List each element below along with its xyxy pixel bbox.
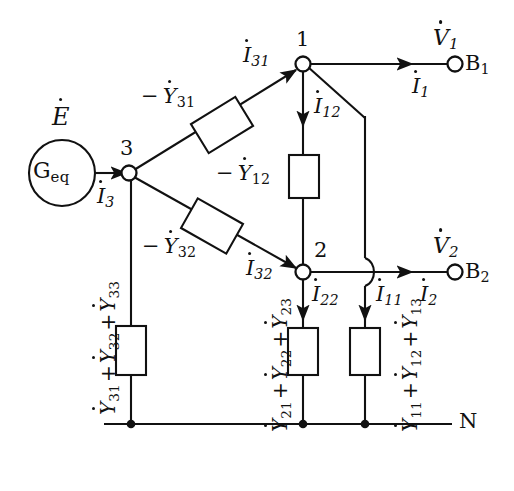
admittance-label-y32: − Y32 — [142, 236, 196, 259]
junction-dot-right — [361, 420, 370, 429]
node-2 — [296, 265, 311, 280]
voltage-label-v1: V1 — [433, 27, 459, 52]
shunt-label-node2: Y21 + Y22 + Y23 — [270, 298, 293, 432]
current-label-i31: I31 — [243, 45, 270, 68]
node-1 — [296, 57, 311, 72]
conductance-label: Geq — [33, 160, 69, 185]
conductance-subscript: eq — [51, 168, 70, 186]
admittance-box-y31 — [191, 97, 253, 153]
current-label-i1: I1 — [412, 76, 430, 99]
voltage-label-v2: V2 — [433, 235, 459, 260]
terminal-b2 — [448, 265, 463, 280]
admittance-label-y31: − Y31 — [141, 86, 195, 109]
node-label-3: 3 — [120, 138, 133, 159]
neutral-label: N — [459, 411, 477, 432]
circuit-diagram: E Geq I3 3 1 2 − Y31 − Y32 − Y12 I31 I32… — [0, 0, 514, 491]
node-3 — [122, 166, 137, 181]
current-label-i22: I22 — [312, 284, 339, 307]
admittance-label-y12: − Y12 — [216, 163, 270, 186]
current-label-i11: I11 — [376, 284, 403, 307]
node-label-1: 1 — [296, 29, 309, 50]
junction-dot-middle — [299, 420, 308, 429]
terminal-label-b2: B2 — [465, 261, 490, 284]
shunt-label-node1: Y11 + Y12 + Y13 — [400, 298, 423, 432]
terminal-b1 — [448, 57, 463, 72]
shunt-label-node3: Y31 + Y32 + Y33 — [98, 281, 121, 415]
node-label-2: 2 — [314, 240, 327, 261]
admittance-box-y11 — [350, 328, 380, 375]
current-label-i3: I3 — [97, 186, 115, 209]
junction-dot-left — [127, 420, 136, 429]
current-label-i12: I12 — [314, 96, 341, 119]
admittance-box-y12 — [289, 155, 319, 198]
terminal-label-b1: B1 — [465, 53, 490, 76]
current-label-i32: I32 — [246, 258, 273, 281]
emf-label: E — [52, 105, 70, 129]
